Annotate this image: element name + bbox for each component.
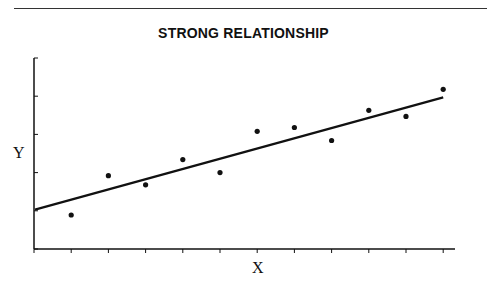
data-point — [292, 125, 297, 130]
regression-line — [35, 97, 443, 209]
data-point — [441, 87, 446, 92]
data-point — [255, 129, 260, 134]
axes — [34, 58, 455, 253]
data-point — [106, 173, 111, 178]
data-point — [329, 138, 334, 143]
scatter-plot — [0, 0, 487, 283]
data-point — [69, 212, 74, 217]
data-points — [69, 87, 446, 218]
data-point — [217, 170, 222, 175]
data-point — [143, 182, 148, 187]
data-point — [403, 114, 408, 119]
data-point — [180, 157, 185, 162]
trend-line — [35, 97, 443, 209]
data-point — [366, 108, 371, 113]
